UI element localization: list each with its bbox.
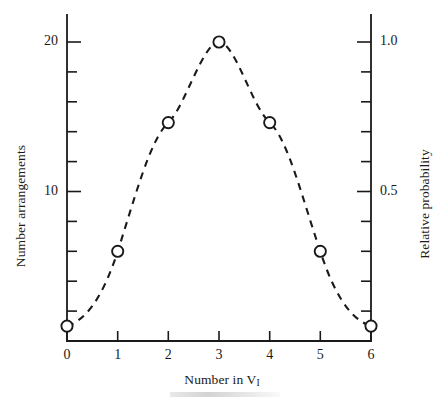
data-markers — [61, 36, 376, 331]
x-axis-tick-label-6: 6 — [359, 347, 383, 363]
x-axis-tick-label-3: 3 — [207, 347, 231, 363]
data-point — [365, 321, 376, 332]
data-point — [112, 246, 123, 257]
figure-binomial-arrangements: 20 10 1.0 0.5 0 1 2 3 4 5 6 Number arran… — [0, 0, 441, 408]
y-axis-left-tick-label-20: 20 — [16, 33, 58, 49]
x-axis-tick-label-0: 0 — [55, 347, 79, 363]
x-axis-tick-label-1: 1 — [106, 347, 130, 363]
data-point — [213, 36, 224, 47]
data-point — [61, 321, 72, 332]
x-axis-ticks — [67, 331, 371, 341]
y-axis-right-title: Relative probability — [417, 134, 433, 274]
data-curve — [67, 42, 371, 326]
x-axis-title: Number in VI — [132, 372, 312, 388]
caption-remnant — [170, 392, 280, 397]
x-axis-title-subscript: I — [256, 378, 259, 388]
y-axis-right-ticks — [357, 42, 371, 341]
x-axis-tick-label-4: 4 — [258, 347, 282, 363]
data-point — [163, 117, 174, 128]
data-point — [315, 246, 326, 257]
y-axis-left-title: Number arrangements — [13, 136, 29, 276]
x-axis-tick-label-5: 5 — [308, 347, 332, 363]
data-point — [264, 117, 275, 128]
x-axis-tick-label-2: 2 — [156, 347, 180, 363]
x-axis-title-main: Number in V — [184, 372, 256, 387]
y-axis-right-tick-label-1-0: 1.0 — [380, 33, 426, 49]
y-axis-left-ticks — [67, 42, 81, 341]
